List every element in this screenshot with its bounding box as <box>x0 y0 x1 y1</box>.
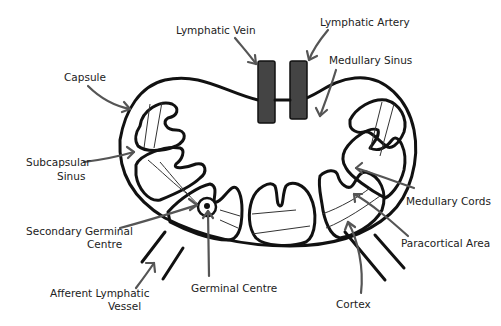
arrow-subcapsular-sinus <box>84 152 134 162</box>
cord-line <box>252 210 296 214</box>
cord-line <box>252 226 310 234</box>
label-germinal-centre: Germinal Centre <box>191 282 277 294</box>
arrow-medullary-sinus <box>320 70 336 116</box>
efferent-vessel-right <box>375 235 404 268</box>
arrow-capsule <box>88 86 130 109</box>
arrowhead <box>189 199 197 210</box>
label-secondary-germinal-centre: Secondary Germinal <box>26 225 133 237</box>
label-lymphatic-vein: Lymphatic Vein <box>176 24 256 36</box>
label-capsule: Capsule <box>64 71 106 83</box>
cord-line <box>148 160 190 196</box>
lymph-node-diagram: Lymphatic Vein Lymphatic Artery Medullar… <box>0 0 501 326</box>
cortical-lobe-upper-left <box>136 103 184 150</box>
label-lymphatic-artery: Lymphatic Artery <box>320 16 410 28</box>
cord-line <box>322 188 370 214</box>
arrow-lymphatic-vein <box>235 38 256 64</box>
label-paracortical-area: Paracortical Area <box>401 237 490 249</box>
afferent-lymphatic-vessel-left <box>142 232 165 262</box>
cord-line <box>154 102 162 148</box>
lymphatic-artery <box>290 61 307 119</box>
afferent-lymphatic-vessel-right <box>163 248 183 279</box>
label-medullary-sinus: Medullary Sinus <box>329 54 412 66</box>
cortical-lobe-bottom-center <box>249 183 315 245</box>
arrow-germinal-centre <box>208 211 209 276</box>
cortical-lobe-upper-right <box>350 100 405 148</box>
label-afferent-lymphatic-vessel-line2: Vessel <box>108 300 141 312</box>
cord-line <box>220 210 240 216</box>
germinal-centre <box>204 203 210 209</box>
label-subcapsular-sinus-line2: Sinus <box>57 170 85 182</box>
label-afferent-lymphatic-vessel: Afferent Lymphatic <box>50 287 150 299</box>
label-medullary-cords: Medullary Cords <box>406 195 491 207</box>
label-secondary-germinal-centre-line2: Centre <box>87 238 122 250</box>
label-cortex: Cortex <box>336 298 371 310</box>
arrow-lymphatic-artery <box>309 30 328 60</box>
arrow-afferent-lymphatic-vessel <box>136 263 154 288</box>
lymphatic-vein <box>258 61 275 123</box>
cord-line <box>220 220 238 228</box>
label-subcapsular-sinus: Subcapsular <box>26 156 91 168</box>
